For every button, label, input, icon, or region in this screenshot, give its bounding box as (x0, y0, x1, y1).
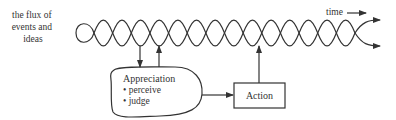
flux-label: the flux of events and ideas (12, 10, 55, 44)
bullet-perceive: • perceive (123, 85, 161, 95)
action-label: Action (246, 90, 273, 101)
bottom-strand-arrow-icon (355, 33, 380, 46)
bullet-judge: • judge (123, 96, 150, 106)
appreciation-action-diagram: the flux of events and ideas time Apprec… (0, 0, 396, 120)
flux-helix (76, 20, 355, 46)
time-label: time (326, 7, 343, 17)
appreciation-title: Appreciation (123, 73, 175, 84)
top-strand-arrow-icon (355, 20, 380, 33)
